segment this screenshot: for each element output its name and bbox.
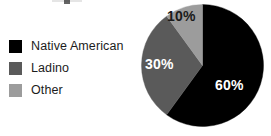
cropped-title-remnant <box>64 0 70 4</box>
legend-swatch-other <box>9 84 22 97</box>
pie-label-other: 10% <box>167 8 196 24</box>
legend-swatch-native-american <box>9 40 22 53</box>
legend-item-other: Other <box>9 79 149 101</box>
legend-swatch-ladino <box>9 62 22 75</box>
legend-label-ladino: Ladino <box>31 62 69 75</box>
legend-item-ladino: Ladino <box>9 57 149 79</box>
legend-item-native-american: Native American <box>9 35 149 57</box>
legend-label-native-american: Native American <box>31 40 124 53</box>
pie-chart-figure: Native American Ladino Other 60% 30% 10% <box>0 0 271 136</box>
pie-label-native-american: 60% <box>215 77 244 93</box>
chart-legend: Native American Ladino Other <box>9 35 149 101</box>
pie-label-ladino: 30% <box>145 56 174 72</box>
pie-chart: 60% 30% 10% <box>141 4 264 127</box>
legend-label-other: Other <box>31 84 63 97</box>
